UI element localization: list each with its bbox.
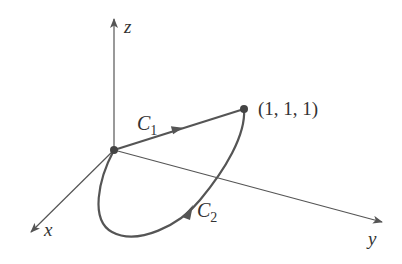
c1-direction-arrow-icon — [171, 126, 183, 134]
curve-c1: C1 — [114, 109, 244, 150]
y-axis: y — [114, 150, 382, 249]
c2-direction-arrow-icon — [182, 205, 193, 220]
c1-label: C1 — [137, 112, 157, 138]
endpoint-label: (1, 1, 1) — [258, 98, 318, 120]
origin-point — [110, 146, 118, 154]
line-integral-diagram: z x y C1 C2 (1, 1, 1) — [0, 0, 402, 264]
z-axis-label: z — [123, 16, 132, 37]
c2-label: C2 — [197, 199, 217, 225]
x-axis-label: x — [43, 219, 53, 240]
z-axis: z — [114, 16, 132, 150]
x-axis: x — [31, 150, 114, 240]
curve-c2: C2 — [99, 109, 245, 236]
endpoint-point — [240, 105, 248, 113]
y-axis-label: y — [366, 228, 377, 249]
